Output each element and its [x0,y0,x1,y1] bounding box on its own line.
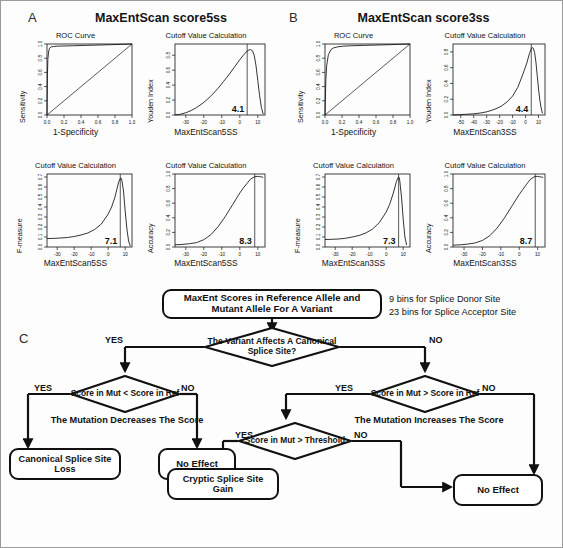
svg-text:0.8: 0.8 [444,48,449,55]
svg-text:0.4: 0.4 [38,83,43,90]
svg-text:0.4: 0.4 [78,120,85,125]
plot-canvas: -50-40-30-20-100100.00.20.40.60.84.4 [419,31,551,137]
plot-xlabel: MaxEntScan3SS [419,258,551,270]
svg-text:0.8: 0.8 [38,55,43,62]
svg-text:0.4: 0.4 [444,80,449,87]
panel-title-b: MaxEntScan score3ss [321,11,526,25]
edge-label-yes-right: YES [335,383,353,393]
outcome-cryptic-splice-site-gain: Cryptic Splice Site Gain [167,468,279,500]
svg-text:0.4: 0.4 [166,81,171,88]
bins-note-line-2: 23 bins for Splice Acceptor Site [389,306,516,319]
svg-text:7.3: 7.3 [383,236,396,246]
plot-canvas: -30-20-100100.00.20.40.60.81.08.7 [419,161,551,269]
outcome-no-effect-right: No Effect [453,474,543,506]
caption-mutation-increases: The Mutation Increases The Score [349,415,509,426]
plot-xlabel: MaxEntScan5SS [13,258,138,270]
svg-text:0.6: 0.6 [373,120,380,125]
svg-text:0: 0 [518,252,521,257]
svg-text:-30: -30 [182,120,189,125]
svg-text:0: 0 [239,252,242,257]
plot-canvas: -30-20-100100.00.10.20.30.40.50.60.77.1 [13,161,138,269]
decision-score-mut-greater-than-threshold: Score in Mut > Threshold [238,422,352,460]
svg-text:0.6: 0.6 [95,120,102,125]
svg-text:0.8: 0.8 [112,120,119,125]
svg-text:0.2: 0.2 [166,229,171,236]
svg-text:4.1: 4.1 [232,104,245,114]
svg-text:0.8: 0.8 [444,185,449,192]
svg-text:4.4: 4.4 [516,104,529,114]
plot-xlabel: MaxEntScan3SS [291,258,416,270]
node-start-label: MaxEnt Scores in Reference Allele and Mu… [170,293,374,314]
plot-xlabel: MaxEntScan3SS [419,127,551,138]
edge-label-yes-left: YES [34,383,52,393]
decision-score-mut-less-than-ref: Score in Mut < Score in Ref [70,375,180,413]
svg-text:-20: -20 [200,252,207,257]
svg-text:0.0: 0.0 [444,111,449,118]
svg-text:0.6: 0.6 [38,69,43,76]
svg-text:0.0: 0.0 [38,111,43,118]
plot-xlabel: MaxEntScan5SS [141,127,271,138]
svg-text:0: 0 [524,120,527,125]
plot-canvas: -30-20-100100.00.10.20.30.40.50.60.77.3 [291,161,416,269]
svg-text:0.0: 0.0 [444,243,449,250]
svg-text:10: 10 [123,252,129,257]
decision-canonical-splice-site: The Variant Affects A Canonical Splice S… [204,327,340,367]
caption-mutation-decreases: The Mutation Decreases The Score [47,415,207,426]
svg-text:-20: -20 [349,252,356,257]
svg-text:10: 10 [255,120,261,125]
svg-text:0.6: 0.6 [444,64,449,71]
svg-text:0.2: 0.2 [61,120,68,125]
edge-label-no-left: NO [181,383,195,393]
svg-text:0.0: 0.0 [316,243,321,250]
svg-text:0: 0 [239,120,242,125]
svg-text:0.7: 0.7 [316,173,321,180]
svg-text:0.0: 0.0 [166,243,171,250]
svg-text:0.0: 0.0 [322,120,329,125]
svg-text:0.2: 0.2 [166,96,171,103]
svg-text:-20: -20 [496,120,503,125]
svg-text:1.0: 1.0 [444,170,449,177]
svg-text:-40: -40 [470,120,477,125]
svg-text:0.2: 0.2 [316,97,321,104]
svg-text:0.8: 0.8 [166,52,171,59]
plot-canvas: 0.00.20.40.60.81.00.00.20.40.60.81.0 [13,31,138,137]
svg-text:0.4: 0.4 [166,214,171,221]
svg-text:0.1: 0.1 [316,233,321,240]
svg-text:0.4: 0.4 [38,203,43,210]
svg-text:1.0: 1.0 [407,120,414,125]
svg-text:0.6: 0.6 [166,67,171,74]
svg-text:-50: -50 [457,120,464,125]
outcome-canonical-splice-site-loss: Canonical Splice Site Loss [9,448,121,480]
edge-label-yes-main: YES [105,335,123,345]
edge-label-yes-threshold: YES [235,430,253,440]
plot-xlabel: 1-Specificity [13,127,138,138]
plot-a-accuracy: Cutoff Value Calculation Accuracy -30-20… [141,161,271,269]
svg-text:-10: -10 [88,252,95,257]
svg-text:0.4: 0.4 [316,203,321,210]
plot-canvas: 0.00.20.40.60.81.00.00.20.40.60.81.0 [291,31,416,137]
svg-text:0.2: 0.2 [444,96,449,103]
plot-b-roc: ROC Curve Sensitivity 0.00.20.40.60.81.0… [291,31,416,137]
decision-score-mut-greater-than-ref: Score in Mut > Score in Ref [370,375,480,413]
plot-a-fmeasure: Cutoff Value Calculation F-measure -30-2… [13,161,138,269]
svg-text:0.4: 0.4 [356,120,363,125]
plot-canvas: -30-20-100100.00.20.40.60.81.08.3 [141,161,271,269]
svg-text:-30: -30 [54,252,61,257]
edge-label-no-threshold: NO [354,430,368,440]
plot-a-youden: Cutoff Value Calculation Youden Index -3… [141,31,271,137]
svg-text:0.2: 0.2 [316,223,321,230]
plot-a-roc: ROC Curve Sensitivity 0.00.20.40.60.81.0… [13,31,138,137]
svg-text:0.2: 0.2 [444,229,449,236]
svg-text:-30: -30 [332,252,339,257]
svg-text:-10: -10 [366,252,373,257]
outcome-cryptic-gain-label: Cryptic Splice Site Gain [173,474,273,495]
flowchart-panel-c: MaxEnt Scores in Reference Allele and Mu… [1,287,562,547]
svg-text:-10: -10 [509,120,516,125]
svg-text:-20: -20 [479,252,486,257]
svg-text:10: 10 [536,120,542,125]
svg-text:-30: -30 [182,252,189,257]
plot-xlabel: MaxEntScan5SS [141,258,271,270]
svg-text:1.0: 1.0 [166,170,171,177]
svg-text:0.3: 0.3 [38,213,43,220]
svg-text:8.3: 8.3 [239,236,252,246]
